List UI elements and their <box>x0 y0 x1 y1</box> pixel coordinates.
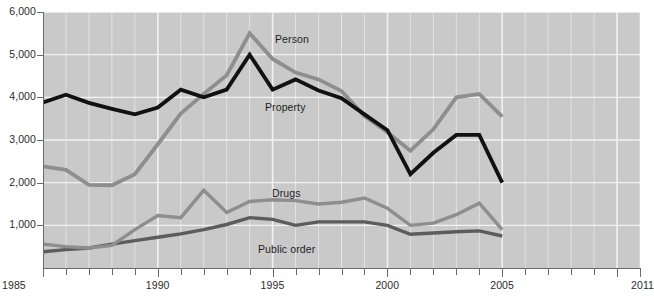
x-tick <box>456 269 457 275</box>
y-tick-label: 4,000 <box>0 91 36 101</box>
x-tick-label: 1985 <box>2 279 26 291</box>
x-tick-label: 1990 <box>146 279 170 291</box>
line-chart: 1,0002,0003,0004,0005,0006,000 198519901… <box>0 0 654 298</box>
y-tick <box>37 225 44 226</box>
x-tick <box>227 269 228 275</box>
x-tick <box>273 269 274 277</box>
y-tick-label: 3,000 <box>0 134 36 144</box>
x-tick <box>135 269 136 275</box>
x-tick <box>181 269 182 275</box>
x-tick <box>617 269 618 277</box>
x-tick <box>158 269 159 277</box>
y-axis-labels: 1,0002,0003,0004,0005,0006,000 <box>0 0 36 298</box>
x-tick <box>296 269 297 275</box>
y-tick-label: 5,000 <box>0 49 36 59</box>
x-tick-label: 1995 <box>261 279 285 291</box>
x-tick <box>66 269 67 275</box>
series-annotation-public-order: Public order <box>258 243 315 255</box>
x-tick <box>89 269 90 275</box>
series-annotation-person: Person <box>275 33 309 45</box>
x-tick-label: 2011 <box>631 279 654 291</box>
x-tick <box>364 269 365 275</box>
y-tick <box>37 55 44 56</box>
x-tick-label: 2000 <box>375 279 399 291</box>
series-annotation-property: Property <box>265 101 305 113</box>
y-tick-label: 1,000 <box>0 219 36 229</box>
x-tick <box>525 269 526 275</box>
x-tick <box>112 269 113 275</box>
y-tick <box>37 12 44 13</box>
y-tick <box>37 97 44 98</box>
x-tick <box>640 269 641 277</box>
y-tick <box>37 183 44 184</box>
x-tick-label: 2005 <box>490 279 514 291</box>
x-tick <box>43 269 44 277</box>
y-tick-label: 2,000 <box>0 177 36 187</box>
x-tick <box>410 269 411 275</box>
x-tick <box>548 269 549 275</box>
x-tick <box>571 269 572 275</box>
x-tick <box>433 269 434 275</box>
plot-svg <box>43 12 640 268</box>
x-tick <box>594 269 595 275</box>
x-tick <box>319 269 320 275</box>
x-tick <box>204 269 205 275</box>
plot-area <box>43 12 640 268</box>
x-tick <box>342 269 343 275</box>
series-annotation-drugs: Drugs <box>272 187 301 199</box>
y-tick <box>37 140 44 141</box>
y-tick-label: 6,000 <box>0 6 36 16</box>
x-tick <box>479 269 480 275</box>
x-tick <box>502 269 503 277</box>
x-tick <box>250 269 251 275</box>
x-tick <box>387 269 388 277</box>
